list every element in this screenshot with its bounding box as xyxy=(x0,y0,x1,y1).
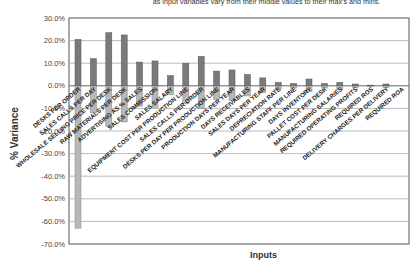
y-tick-label: -50.0% xyxy=(41,194,65,203)
y-tick-label: 20.0% xyxy=(44,36,66,45)
bar-max xyxy=(244,75,250,86)
bar-max xyxy=(214,71,220,86)
bar-max xyxy=(137,62,143,86)
y-tick-label: 30.0% xyxy=(44,14,66,23)
y-tick-label: -60.0% xyxy=(41,217,65,226)
bar-max xyxy=(75,39,81,85)
bar-max xyxy=(152,61,158,86)
bar-max xyxy=(106,33,112,86)
y-tick-label: -40.0% xyxy=(41,172,65,181)
y-tick-label: -30.0% xyxy=(41,149,65,158)
bar-max xyxy=(260,78,266,86)
bar-max xyxy=(229,70,235,86)
bar-max xyxy=(183,63,189,86)
bar-max xyxy=(121,35,127,86)
y-tick-label: -70.0% xyxy=(41,240,65,249)
y-tick-label: 10.0% xyxy=(44,59,66,68)
bar-max xyxy=(198,56,204,85)
bar-max xyxy=(167,76,173,86)
bar-chart: 30.0%20.0%10.0%0.0%-10.0%-20.0%-30.0%-40… xyxy=(0,0,413,268)
bar-max xyxy=(90,59,96,86)
y-tick-label: 0.0% xyxy=(48,81,65,90)
bar-max xyxy=(306,79,312,86)
